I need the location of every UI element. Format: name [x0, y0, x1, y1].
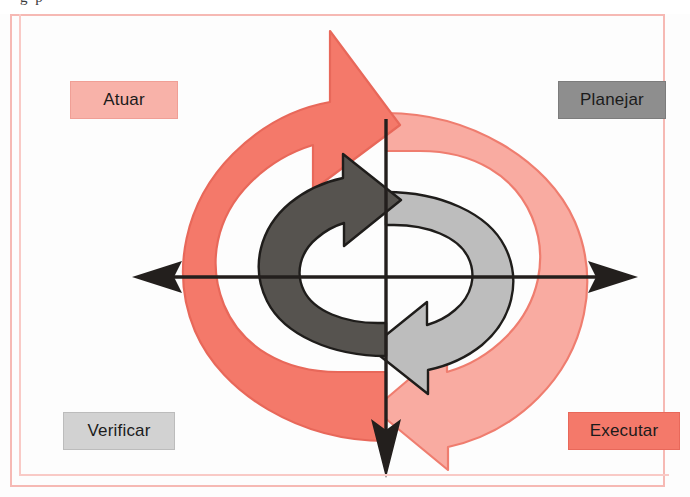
- diagram-page: g p Atuar Planejar Verificar Executar: [0, 0, 690, 497]
- label-act-atuar[interactable]: Atuar: [70, 81, 178, 119]
- cropped-header-strip: g p: [0, 0, 690, 14]
- inner-left-arrow: [259, 154, 401, 356]
- label-check-text: Verificar: [87, 421, 150, 441]
- cropped-header-text: g p: [20, 0, 45, 6]
- label-act-text: Atuar: [103, 90, 145, 110]
- label-do-executar[interactable]: Executar: [568, 412, 680, 450]
- label-do-text: Executar: [590, 421, 659, 441]
- label-check-verificar[interactable]: Verificar: [63, 412, 175, 450]
- vertical-axis: [371, 119, 401, 478]
- label-plan-text: Planejar: [580, 90, 644, 110]
- label-plan-planejar[interactable]: Planejar: [558, 81, 666, 119]
